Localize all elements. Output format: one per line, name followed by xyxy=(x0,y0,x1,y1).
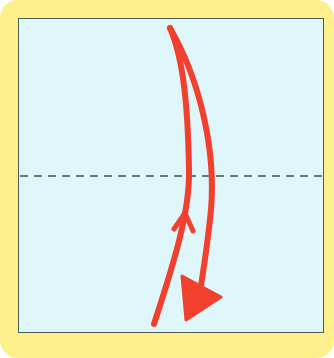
fold-diagram-overlay xyxy=(0,0,334,358)
